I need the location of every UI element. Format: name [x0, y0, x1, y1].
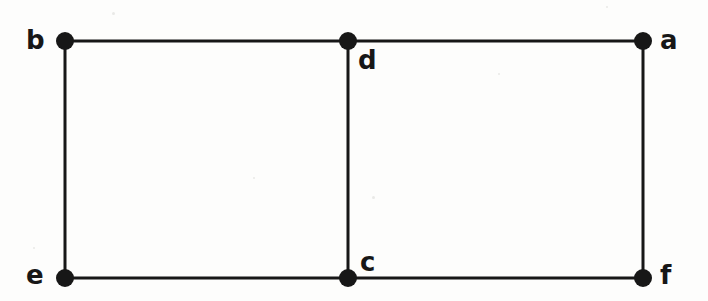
vertex-layer	[56, 32, 652, 287]
vertex-label-f: f	[660, 262, 671, 288]
graph-vertex-f	[634, 269, 652, 287]
graph-vertex-c	[339, 269, 357, 287]
vertex-label-b: b	[26, 27, 45, 53]
graph-canvas	[0, 0, 708, 301]
vertex-label-a: a	[660, 27, 678, 53]
vertex-label-e: e	[26, 262, 44, 288]
graph-vertex-b	[56, 32, 74, 50]
graph-vertex-a	[634, 32, 652, 50]
graph-vertex-d	[339, 32, 357, 50]
graph-vertex-e	[56, 269, 74, 287]
edge-layer	[65, 41, 643, 278]
vertex-label-c: c	[360, 249, 375, 275]
vertex-label-d: d	[358, 47, 377, 73]
graph-figure: bdaecf	[0, 0, 708, 301]
